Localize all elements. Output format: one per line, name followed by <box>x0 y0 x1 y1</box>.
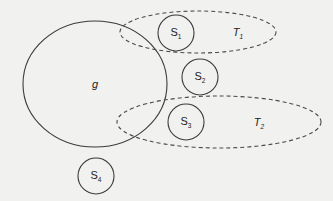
diagram-background <box>0 0 333 201</box>
region-g-label: g <box>92 78 99 90</box>
set-diagram: g T1 T2 S1 S2 S3 S4 <box>0 0 333 201</box>
